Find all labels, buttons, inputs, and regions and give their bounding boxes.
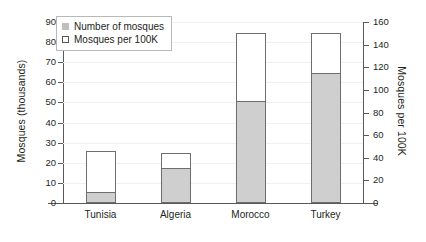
legend-swatch-filled-icon: [62, 23, 69, 30]
y-axis-left-tick-label: 30: [45, 137, 56, 148]
y-axis-right-tick: [364, 45, 369, 46]
y-axis-right-tick: [364, 135, 369, 136]
y-axis-right-tick-label: 140: [373, 39, 389, 50]
y-axis-right-tick-label: 20: [373, 174, 384, 185]
y-axis-right-tick: [364, 158, 369, 159]
bar-algeria: [161, 153, 191, 203]
y-axis-right-tick: [364, 203, 369, 204]
y-axis-left-tick-label: 60: [45, 76, 56, 87]
x-axis-label-turkey: Turkey: [288, 209, 363, 220]
legend-label-number-of-mosques: Number of mosques: [74, 20, 164, 33]
y-axis-left-tick-label: 40: [45, 117, 56, 128]
legend-swatch-hollow-icon: [62, 36, 69, 43]
x-axis-label-morocco: Morocco: [213, 209, 288, 220]
bar-filled-segment: [162, 168, 190, 202]
y-axis-right-title: Mosques per 100K: [396, 41, 408, 181]
y-axis-right-tick-label: 40: [373, 152, 384, 163]
y-axis-left-title: Mosques (thousands): [15, 41, 27, 181]
x-axis-label-tunisia: Tunisia: [63, 209, 138, 220]
y-axis-right-tick-label: 160: [373, 16, 389, 27]
y-axis-right-tick-label: 60: [373, 129, 384, 140]
y-axis-left-tick-label: 70: [45, 56, 56, 67]
y-axis-right-tick: [364, 90, 369, 91]
y-axis-left-tick-label: 50: [45, 96, 56, 107]
y-axis-right-tick: [364, 67, 369, 68]
y-axis-right-tick: [364, 22, 369, 23]
y-axis-right-tick-label: 80: [373, 107, 384, 118]
legend-item-mosques-per-100k: Mosques per 100K: [62, 33, 164, 46]
bar-morocco: [236, 33, 266, 203]
x-axis-label-algeria: Algeria: [138, 209, 213, 220]
y-axis-left-tick-label: 20: [45, 157, 56, 168]
y-axis-right-tick-label: 100: [373, 84, 389, 95]
bar-filled-segment: [237, 101, 265, 202]
bar-filled-segment: [312, 73, 340, 202]
y-axis-left-tick-label: 90: [45, 16, 56, 27]
bar-chart: Mosques (thousands) Mosques per 100K 010…: [0, 0, 426, 242]
bar-turkey: [311, 33, 341, 203]
legend: Number of mosques Mosques per 100K: [56, 16, 172, 51]
y-axis-left-tick-label: 0: [51, 197, 56, 208]
bar-filled-segment: [87, 192, 115, 202]
y-axis-right-tick-label: 120: [373, 61, 389, 72]
y-axis-right-tick: [364, 180, 369, 181]
y-axis-right-tick-label: 0: [373, 197, 378, 208]
bar-tunisia: [86, 151, 116, 203]
y-axis-left-tick-label: 10: [45, 177, 56, 188]
legend-item-number-of-mosques: Number of mosques: [62, 20, 164, 33]
legend-label-mosques-per-100k: Mosques per 100K: [74, 33, 158, 46]
x-axis-line: [48, 203, 378, 204]
y-axis-left-tick-label: 80: [45, 36, 56, 47]
y-axis-left-tick: [58, 203, 63, 204]
y-axis-right-tick: [364, 113, 369, 114]
